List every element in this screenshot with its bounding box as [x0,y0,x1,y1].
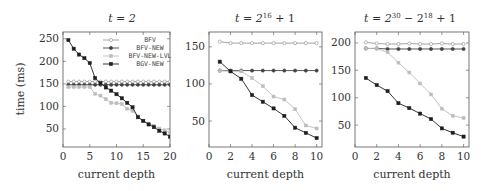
legend-entry: BFV-NEW [103,44,164,52]
legend-entry: BFV-NEW-LVL [103,52,172,60]
y-tick-label: 50 [192,115,205,127]
series-bgv-new [218,60,318,140]
x-tick-label: 10 [310,150,323,162]
y-tick-label: 150 [39,77,59,89]
y-tick-label: 50 [46,122,59,134]
x-tick-label: 2 [227,150,234,162]
y-tick-label: 100 [331,91,351,103]
y-tick-label: 200 [39,55,59,67]
x-tick-label: 8 [439,150,446,162]
x-tick-label: 20 [163,150,176,162]
x-tick-label: 5 [86,150,93,162]
legend-entry: BGV-NEW [103,60,164,68]
x-axis-label: current depth [227,168,304,181]
x-tick-label: 4 [395,150,402,162]
x-tick-label: 6 [417,150,424,162]
x-tick-label: 0 [352,150,359,162]
series-bfv-new-lvl [67,86,172,135]
x-tick-label: 0 [60,150,67,162]
y-tick-label: 200 [331,36,351,48]
y-axis-label: time (ms) [14,62,27,115]
x-tick-label: 8 [292,150,299,162]
x-axis-label: current depth [373,168,450,181]
chart-canvas: time (ms) t = 20510152050100150200250cur… [0,0,483,191]
legend-label: BGV-NEW [136,60,163,68]
y-tick-label: 150 [185,40,205,52]
x-tick-label: 6 [270,150,277,162]
legend-entry: BFV [103,36,156,44]
legend-label: BFV-NEW-LVL [128,52,171,60]
y-tick-label: 100 [39,100,59,112]
x-tick-label: 4 [249,150,256,162]
figure: time (ms) t = 20510152050100150200250cur… [0,0,483,191]
series-bfv-new-lvl [218,69,318,130]
subplot-t-2-16-plus-1: t = 216 + 1024681050100150current depth [185,12,323,181]
series-bfv-new [67,83,172,86]
x-tick-label: 15 [137,150,150,162]
legend: BFVBFV-NEWBFV-NEW-LVLBGV-NEW [103,36,172,68]
x-tick-label: 10 [457,150,470,162]
subplot-title: t = 216 + 1 [235,12,295,25]
series-bfv-new-lvl [364,47,465,120]
series-bfv [364,41,465,46]
y-tick-label: 100 [185,77,205,89]
x-tick-label: 10 [110,150,123,162]
legend-label: BFV-NEW [136,44,163,52]
series-bfv-new [364,47,465,51]
x-tick-label: 0 [206,150,213,162]
subplot-t-2: t = 20510152050100150200250current depth [39,12,177,181]
subplot-t-2-30-minus-2-18-plus-1: t = 230 − 218 + 1024681050100150200curre… [331,12,470,181]
series-bgv-new [364,76,465,138]
subplot-title: t = 230 − 218 + 1 [364,12,456,25]
y-tick-label: 50 [338,119,351,131]
series-bfv [218,40,318,45]
x-tick-label: 2 [373,150,380,162]
y-tick-label: 150 [331,64,351,76]
plot-frame [209,32,322,147]
subplot-title: t = 2 [108,12,136,25]
x-axis-label: current depth [78,168,155,181]
y-tick-label: 250 [39,32,59,44]
series-bfv [67,80,172,83]
legend-label: BFV [144,36,156,44]
